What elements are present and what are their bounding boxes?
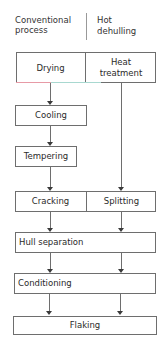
step-cooling: Cooling	[15, 110, 87, 120]
header-left-line2: process	[15, 25, 48, 35]
connector-hull-conditioning-left	[50, 253, 51, 270]
connector-hull-conditioning-right	[121, 253, 122, 270]
connector-splitting-hull	[121, 212, 122, 229]
step-hull-separation: Hull separation	[19, 237, 83, 247]
step-heat-treatment-line2: treatment	[86, 68, 156, 78]
scan-tint-green	[51, 82, 101, 83]
scan-tint-red	[16, 82, 51, 83]
header-right-line2: dehulling	[97, 26, 136, 36]
step-heat-treatment-line1: Heat	[86, 57, 156, 67]
step-drying: Drying	[16, 63, 85, 73]
connector-conditioning-flaking-right	[120, 294, 121, 312]
arrow-down-icon	[46, 311, 52, 315]
connector-cooling-tempering	[50, 126, 51, 143]
header-left-line1: Conventional	[15, 15, 71, 25]
connector-tempering-cracking	[50, 167, 51, 188]
step-conditioning: Conditioning	[18, 278, 72, 288]
step-splitting: Splitting	[87, 196, 156, 206]
arrow-down-icon	[117, 311, 123, 315]
connector-conditioning-flaking-left	[49, 294, 50, 312]
connector-cracking-hull	[50, 212, 51, 229]
header-right-line1: Hot	[97, 15, 112, 25]
connector-heat-splitting	[121, 83, 122, 188]
connector-drying-cooling	[50, 83, 51, 102]
header-divider	[86, 13, 87, 40]
step-flaking: Flaking	[13, 320, 157, 330]
step-tempering: Tempering	[15, 151, 77, 161]
step-cracking: Cracking	[15, 196, 86, 206]
